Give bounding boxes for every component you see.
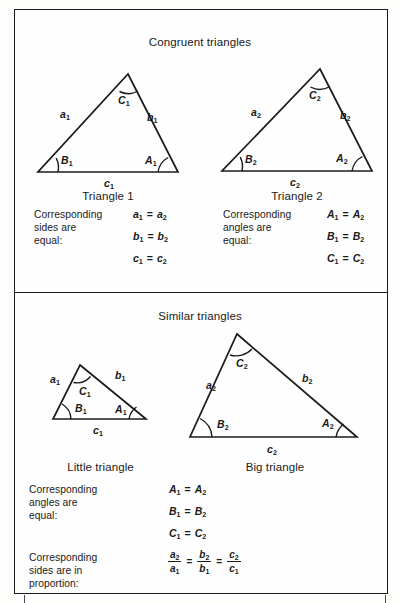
statement-congruent-angles-text: Corresponding angles are equal: (223, 208, 323, 248)
equation-C1-C2-similar: C1=C2 (169, 528, 206, 539)
triangle-2-side-b-label: b2 (340, 110, 350, 121)
crop-tick-left (24, 595, 25, 603)
proportion-operator-2: = (211, 556, 227, 567)
equation-A1-A2-similar: A1=A2 (169, 484, 206, 495)
big-triangle-caption: Big triangle (195, 461, 355, 473)
little-triangle-angle-A-label: A1 (115, 404, 127, 415)
little-triangle-side-c-label: c1 (93, 425, 103, 436)
crop-tick-right (385, 595, 386, 603)
triangle-2-angle-A-label: A2 (336, 153, 348, 164)
triangle-1-caption: Triangle 1 (38, 190, 178, 202)
triangle-2-side-c-label: c2 (290, 177, 300, 188)
statement-similar-angles-text: Corresponding angles are equal: (29, 483, 134, 523)
triangle-1-angle-A-label: A1 (145, 155, 157, 166)
triangle-1-side-b-label: b1 (147, 112, 157, 123)
triangle-1-angle-C-label: C1 (118, 95, 130, 106)
triangle-1-side-a-label: a1 (60, 109, 70, 120)
proportion-operator-1: = (181, 556, 197, 567)
big-triangle-angle-B-label: B2 (217, 419, 229, 430)
equation-A1-A2-congruent: A1=A2 (327, 209, 364, 220)
little-triangle-side-a-label: a1 (50, 374, 60, 385)
little-triangle-angle-C-label: C1 (79, 386, 91, 397)
equation-B1-B2-similar: B1=B2 (169, 506, 206, 517)
panel-title-congruent: Congruent triangles (0, 36, 400, 48)
triangle-1-angle-B-label: B1 (61, 155, 73, 166)
statement-similar-sides-text: Corresponding sides are in proportion: (29, 551, 134, 591)
fraction-b2-over-b1: b2 b1 (197, 549, 211, 574)
equation-C1-C2-congruent: C1=C2 (327, 253, 364, 264)
equation-b1-b2: b1=b2 (133, 231, 168, 242)
equation-a1-a2: a1=a2 (133, 209, 167, 220)
big-triangle-angle-C-label: C2 (236, 358, 248, 369)
equation-B1-B2-congruent: B1=B2 (327, 231, 364, 242)
big-triangle-side-b-label: b2 (302, 373, 312, 384)
proportion-equation: a2 a1 = b2 b1 = c2 c1 (168, 549, 241, 574)
panel-title-similar: Similar triangles (0, 310, 400, 322)
big-triangle-side-c-label: c2 (267, 444, 277, 455)
triangle-2-side-a-label: a2 (251, 107, 261, 118)
panel-divider (14, 292, 388, 293)
big-triangle-angle-A-label: A2 (322, 418, 334, 429)
triangle-2-angle-B-label: B2 (245, 154, 257, 165)
little-triangle-caption: Little triangle (28, 461, 173, 473)
little-triangle-angle-B-label: B1 (75, 403, 87, 414)
statement-congruent-sides-text: Corresponding sides are equal: (34, 208, 134, 248)
fraction-c2-over-c1: c2 c1 (227, 549, 240, 574)
figure-page: Congruent triangles a1 b1 c1 C1 B1 A1 Tr… (0, 0, 400, 603)
big-triangle-side-a-label: a2 (206, 380, 216, 391)
triangle-2-angle-C-label: C2 (309, 90, 321, 101)
little-triangle-side-b-label: b1 (115, 370, 125, 381)
triangle-2-caption: Triangle 2 (222, 190, 372, 202)
fraction-a2-over-a1: a2 a1 (168, 549, 181, 574)
triangle-1-side-c-label: c1 (104, 178, 114, 189)
equation-c1-c2: c1=c2 (133, 253, 167, 264)
